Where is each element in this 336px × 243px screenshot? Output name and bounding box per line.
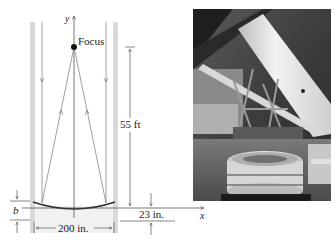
x-axis-label: x bbox=[199, 210, 205, 221]
reflected-arrow-right bbox=[85, 110, 89, 115]
b-label: b bbox=[13, 204, 19, 216]
right-wall bbox=[113, 22, 118, 233]
focal-length-label: 55 ft bbox=[120, 118, 140, 130]
reflected-ray-right bbox=[74, 47, 106, 203]
y-axis-label: y bbox=[64, 13, 70, 24]
telescope-photo-art bbox=[193, 9, 331, 201]
depth-label: 23 in. bbox=[139, 208, 164, 220]
reflected-arrow-left bbox=[59, 110, 63, 115]
telescope-photo bbox=[193, 9, 331, 201]
reflected-ray-left bbox=[42, 47, 74, 203]
left-wall bbox=[30, 22, 35, 233]
width-label: 200 in. bbox=[58, 222, 89, 234]
focus-label: Focus bbox=[78, 35, 104, 47]
focus-point bbox=[71, 44, 77, 50]
